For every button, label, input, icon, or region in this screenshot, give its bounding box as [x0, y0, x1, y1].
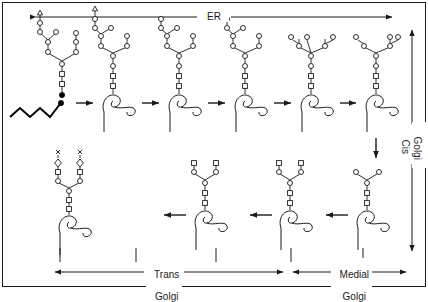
mannose-circle — [99, 34, 104, 39]
mannose-circle — [67, 189, 72, 194]
mannose-circle — [257, 44, 262, 49]
glcnac-square — [374, 74, 379, 79]
trans-golgi-label: Trans Golgi — [146, 258, 182, 302]
x-mark-icon — [56, 150, 60, 154]
mannose-circle — [159, 17, 164, 22]
medial-golgi-label-line1: Medial — [340, 269, 369, 280]
glcnac-square — [309, 84, 314, 89]
protein-squiggle — [301, 95, 318, 132]
glcnac-square — [288, 201, 293, 206]
cis-golgi-label-2: Golgi — [412, 122, 428, 168]
mannose-circle — [165, 44, 170, 49]
x-mark-icon — [78, 150, 82, 154]
mannose-circle — [175, 26, 180, 31]
mannose-circle — [46, 40, 51, 45]
glycan-step-7 — [354, 170, 390, 251]
glcnac-square — [243, 74, 248, 79]
mannose-circle — [159, 26, 164, 31]
protein-squiggle — [59, 216, 76, 255]
mannose-circle — [388, 44, 393, 49]
mannose-circle — [191, 44, 196, 49]
protein-squiggle — [280, 211, 297, 250]
glcnac-square — [60, 82, 65, 87]
glycan-step-5 — [289, 35, 336, 133]
glcnac-square — [67, 198, 72, 203]
mannose-circle — [309, 54, 314, 59]
mannose-circle — [354, 35, 359, 40]
mannose-circle — [74, 50, 79, 55]
mannose-circle — [396, 35, 401, 40]
mannose-circle — [377, 170, 382, 175]
protein-squiggle — [369, 223, 389, 232]
mannose-circle — [99, 44, 104, 49]
mannose-circle — [289, 35, 294, 40]
mannose-circle — [243, 54, 248, 59]
dolichol-zigzag — [10, 104, 60, 117]
glcnac-square — [56, 170, 61, 175]
mannose-circle — [243, 64, 248, 69]
mannose-circle — [177, 64, 182, 69]
mannose-circle — [362, 44, 367, 49]
glcnac-square — [243, 84, 248, 89]
mannose-circle — [388, 35, 393, 40]
mannose-circle — [277, 170, 282, 175]
mannose-circle — [231, 44, 236, 49]
mannose-circle — [241, 26, 246, 31]
glcnac-square — [288, 191, 293, 196]
glcnac-square — [111, 84, 116, 89]
sialic-acid-diamond — [77, 159, 84, 167]
sialic-acid-diamond — [55, 159, 62, 167]
cis-golgi-label-line2: Golgi — [412, 136, 423, 159]
glcnac-square — [111, 74, 116, 79]
protein-squiggle — [366, 95, 383, 132]
mannose-circle — [214, 170, 219, 175]
cis-golgi-label-line1: Cis — [400, 140, 411, 154]
glycan-step-10 — [55, 150, 92, 255]
mannose-circle — [165, 34, 170, 39]
glcnac-square — [60, 72, 65, 77]
mannose-circle — [46, 50, 51, 55]
mannose-circle — [354, 170, 359, 175]
glcnac-square — [203, 191, 208, 196]
glycan-step-4 — [225, 17, 268, 133]
mannose-circle — [54, 30, 59, 35]
protein-squiggle — [313, 107, 333, 116]
mannose-circle — [93, 26, 98, 31]
protein-squiggle — [292, 223, 312, 232]
mannose-circle — [299, 170, 304, 175]
mannose-circle — [109, 26, 114, 31]
mannose-circle — [177, 54, 182, 59]
glcnac-square — [299, 161, 304, 166]
protein-squiggle — [115, 107, 135, 116]
er-label: ER — [199, 11, 229, 22]
mannose-circle — [374, 54, 379, 59]
mannose-circle — [78, 179, 83, 184]
glycan-step-2 — [92, 6, 135, 132]
glcnac-square — [277, 161, 282, 166]
mannose-circle — [111, 54, 116, 59]
medial-golgi-label-line2: Golgi — [343, 291, 366, 302]
glcnac-square — [365, 191, 370, 196]
mannose-circle — [225, 26, 230, 31]
protein-squiggle — [247, 107, 267, 116]
protein-squiggle — [195, 211, 212, 250]
mannose-circle — [309, 64, 314, 69]
mannose-circle — [305, 35, 310, 40]
glcnac-square — [365, 201, 370, 206]
mannose-circle — [93, 17, 98, 22]
protein-squiggle — [378, 107, 398, 116]
glcnac-square — [67, 207, 72, 212]
mannose-circle — [331, 35, 336, 40]
glucose-triangle — [92, 6, 97, 11]
trans-golgi-label-line2: Golgi — [155, 291, 178, 302]
glycan-step-9 — [192, 161, 228, 250]
trans-golgi-label-line1: Trans — [154, 269, 179, 280]
mannose-circle — [111, 64, 116, 69]
glucose-triangle — [37, 10, 42, 15]
glcnac-square — [214, 161, 219, 166]
mannose-circle — [323, 44, 328, 49]
mannose-circle — [60, 62, 65, 67]
mannose-circle — [365, 181, 370, 186]
medial-golgi-label: Medial Golgi — [331, 258, 372, 302]
